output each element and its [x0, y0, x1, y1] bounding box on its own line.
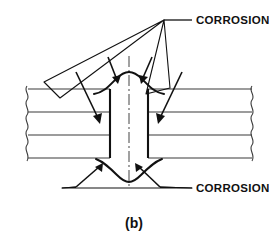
- arrow-top-outer-right-head: [156, 113, 165, 124]
- break-line-right: [251, 86, 253, 161]
- arrow-bottom-left-head: [95, 163, 103, 172]
- arrow-bottom-left-shaft: [76, 167, 99, 187]
- arrow-bottom-right-shaft: [139, 167, 160, 187]
- arrow-top-outer-right-shaft: [160, 72, 182, 118]
- figure-caption: (b): [125, 215, 143, 231]
- top-corrosion-label: CORROSION: [196, 14, 269, 26]
- top-leader-wedge-left: [44, 20, 164, 98]
- arrow-top-outer-left-head: [93, 113, 102, 124]
- corrosion-figure: CORROSION CORROSION (b): [0, 0, 269, 235]
- corrosion-diagram: CORROSION CORROSION (b): [0, 0, 269, 235]
- break-line-left: [26, 86, 28, 161]
- arrow-top-outer-left-shaft: [76, 72, 98, 118]
- bottom-leader-wedge: [62, 187, 192, 188]
- bottom-corrosion-label: CORROSION: [196, 182, 269, 194]
